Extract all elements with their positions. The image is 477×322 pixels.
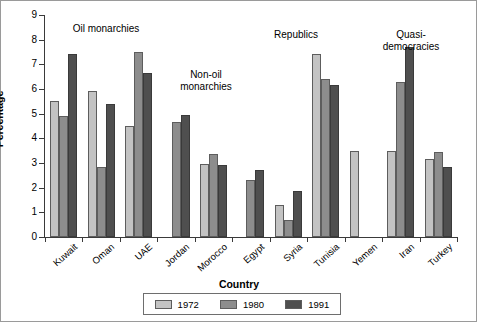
y-axis-tick-label: 7 (31, 59, 37, 69)
x-axis-tick (307, 237, 308, 242)
bar-jordan-1991 (181, 115, 190, 237)
bar-iran-1972 (387, 151, 396, 237)
y-axis-line (44, 15, 45, 238)
chart-legend: 197219801991 (143, 293, 341, 315)
group-annotation: Oil monarchies (73, 23, 140, 35)
x-axis-label-morocco: Morocco (195, 241, 229, 274)
legend-label-1980: 1980 (243, 299, 264, 310)
bar-kuwait-1980 (59, 116, 68, 237)
x-axis-tick (232, 237, 233, 242)
group-annotation: Quasi-democracies (379, 29, 444, 53)
x-axis-tick (420, 237, 421, 242)
x-axis-label-kuwait: Kuwait (51, 241, 80, 268)
bar-tunisia-1991 (330, 85, 339, 237)
x-axis-title: Country (219, 278, 259, 290)
bar-kuwait-1972 (50, 101, 59, 237)
x-axis-label-oman: Oman (90, 241, 117, 266)
bar-kuwait-1991 (68, 54, 77, 237)
legend-swatch-1972 (155, 300, 172, 309)
x-axis-label-uae: UAE (132, 241, 154, 262)
y-axis-tick-label: 8 (31, 35, 37, 45)
bar-tunisia-1980 (321, 79, 330, 237)
x-axis-tick (457, 237, 458, 242)
bar-syria-1972 (275, 205, 284, 237)
x-axis-tick (195, 237, 196, 242)
legend-item-1980: 1980 (220, 299, 264, 310)
bar-turkey-1980 (434, 152, 443, 237)
legend-swatch-1980 (220, 300, 237, 309)
chart-figure: 0123456789 Percentage Country 1972198019… (0, 0, 477, 322)
y-axis-tick-label: 9 (31, 10, 37, 20)
bar-syria-1980 (284, 220, 293, 237)
bar-yemen-1972 (350, 151, 359, 237)
group-annotation: Non-oil monarchies (180, 69, 232, 93)
bar-uae-1991 (143, 73, 152, 237)
x-axis-tick (270, 237, 271, 242)
x-axis-label-jordan: Jordan (163, 241, 192, 269)
bar-group (307, 15, 344, 237)
bar-turkey-1991 (443, 167, 452, 237)
y-axis-tick-label: 2 (31, 183, 37, 193)
bar-morocco-1991 (218, 165, 227, 237)
x-axis-tick (120, 237, 121, 242)
x-axis-tick (157, 237, 158, 242)
bar-group (195, 15, 232, 237)
bar-jordan-1980 (172, 122, 181, 237)
bar-iran-1980 (396, 82, 405, 237)
legend-label-1972: 1972 (178, 299, 199, 310)
bar-group (120, 15, 157, 237)
legend-item-1972: 1972 (155, 299, 199, 310)
bar-uae-1980 (134, 52, 143, 237)
y-axis-title: Percentage (0, 91, 5, 148)
bar-oman-1991 (106, 104, 115, 237)
x-axis-label-egypt: Egypt (241, 241, 266, 265)
x-axis-label-iran: Iran (397, 241, 417, 260)
legend-swatch-1991 (285, 300, 302, 309)
bar-group (345, 15, 382, 237)
bar-oman-1980 (97, 167, 106, 237)
bar-uae-1972 (125, 126, 134, 237)
bar-morocco-1972 (200, 164, 209, 237)
x-axis-tick (82, 237, 83, 242)
bar-group (82, 15, 119, 237)
x-axis-label-yemen: Yemen (350, 241, 379, 269)
bar-turkey-1972 (425, 159, 434, 237)
bar-tunisia-1972 (312, 54, 321, 237)
bar-syria-1991 (293, 191, 302, 237)
bar-group (232, 15, 269, 237)
legend-item-1991: 1991 (285, 299, 329, 310)
x-axis-label-turkey: Turkey (425, 241, 454, 268)
bar-oman-1972 (88, 91, 97, 237)
x-axis-tick (382, 237, 383, 242)
y-axis-tick-label: 5 (31, 109, 37, 119)
y-axis-tick-label: 6 (31, 84, 37, 94)
bar-morocco-1980 (209, 154, 218, 237)
bar-egypt-1980 (246, 180, 255, 237)
x-axis-tick (45, 237, 46, 242)
y-axis-tick-label: 1 (31, 207, 37, 217)
x-axis-line (44, 237, 458, 238)
x-axis-label-tunisia: Tunisia (312, 241, 342, 269)
bar-egypt-1991 (255, 170, 264, 237)
x-axis-tick (345, 237, 346, 242)
group-annotation: Republics (274, 29, 318, 41)
bar-group (270, 15, 307, 237)
y-axis-tick-label: 4 (31, 133, 37, 143)
bar-group (45, 15, 82, 237)
y-axis-tick-label: 0 (31, 232, 37, 242)
legend-label-1991: 1991 (308, 299, 329, 310)
x-axis-label-syria: Syria (281, 241, 304, 264)
bar-group (157, 15, 194, 237)
bar-iran-1991 (405, 47, 414, 237)
y-axis-tick-label: 3 (31, 158, 37, 168)
